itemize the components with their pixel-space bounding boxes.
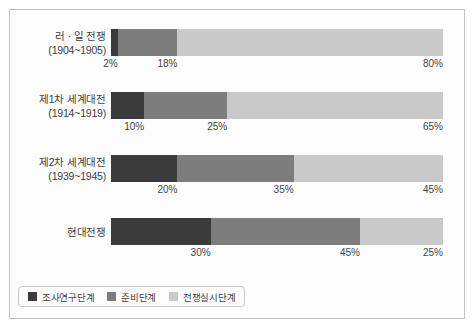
bar-segment xyxy=(227,92,443,119)
legend-swatch-icon xyxy=(28,292,37,301)
bar-value-label: 35% xyxy=(274,183,294,197)
value-label-layer: 30%45%25% xyxy=(111,246,443,262)
legend-swatch-icon xyxy=(107,292,116,301)
bar-value-label: 45% xyxy=(423,183,443,197)
bar-segment xyxy=(111,155,177,182)
stacked-bar xyxy=(111,92,443,119)
chart-legend: 조사연구단계준비단계전쟁실시단계 xyxy=(18,286,245,307)
stacked-bar xyxy=(111,218,443,245)
legend-label: 준비단계 xyxy=(121,290,156,304)
category-name: 제1차 세계대전 xyxy=(14,92,106,106)
legend-swatch-icon xyxy=(169,292,178,301)
category-name: 현대전쟁 xyxy=(14,225,106,239)
value-label-layer: 20%35%45% xyxy=(111,183,443,199)
bar-segment xyxy=(177,155,293,182)
bar-segment xyxy=(360,218,443,245)
category-years: (1914~1919) xyxy=(14,106,106,120)
category-name: 러 · 일 전쟁 xyxy=(14,29,106,43)
plot-area: 조사연구단계준비단계전쟁실시단계 러 · 일 전쟁(1904~1905)2%18… xyxy=(10,10,466,320)
bar-value-label: 25% xyxy=(207,120,227,134)
bar-segment xyxy=(294,155,443,182)
bar-segment xyxy=(111,29,118,56)
category-years: (1939~1945) xyxy=(14,169,106,183)
value-label-layer: 2%18%80% xyxy=(111,57,443,73)
bar-value-label: 30% xyxy=(191,246,211,260)
category-years: (1904~1905) xyxy=(14,43,106,57)
bar-value-label: 80% xyxy=(423,57,443,71)
bar-value-label: 18% xyxy=(157,57,177,71)
chart-figure: 조사연구단계준비단계전쟁실시단계 러 · 일 전쟁(1904~1905)2%18… xyxy=(0,0,476,331)
bar-segment xyxy=(211,218,360,245)
bar-segment xyxy=(111,92,144,119)
chart-row: 러 · 일 전쟁(1904~1905)2%18%80% xyxy=(10,29,466,87)
bar-value-label: 10% xyxy=(124,120,144,134)
bar-segment xyxy=(144,92,227,119)
category-label: 제2차 세계대전(1939~1945) xyxy=(14,155,106,183)
bar-segment xyxy=(118,29,178,56)
legend-item: 준비단계 xyxy=(107,290,156,304)
bar-value-label: 20% xyxy=(157,183,177,197)
value-label-layer: 10%25%65% xyxy=(111,120,443,136)
bar-value-label: 45% xyxy=(340,246,360,260)
category-name: 제2차 세계대전 xyxy=(14,155,106,169)
stacked-bar xyxy=(111,29,443,56)
bar-segment xyxy=(177,29,443,56)
chart-row: 현대전쟁30%45%25% xyxy=(10,218,466,276)
category-label: 제1차 세계대전(1914~1919) xyxy=(14,92,106,120)
legend-item: 조사연구단계 xyxy=(28,290,94,304)
legend-label: 전쟁실시단계 xyxy=(183,290,235,304)
chart-frame: 조사연구단계준비단계전쟁실시단계 러 · 일 전쟁(1904~1905)2%18… xyxy=(9,9,465,319)
category-label: 러 · 일 전쟁(1904~1905) xyxy=(14,29,106,57)
chart-row: 제1차 세계대전(1914~1919)10%25%65% xyxy=(10,92,466,150)
legend-label: 조사연구단계 xyxy=(42,290,94,304)
legend-item: 전쟁실시단계 xyxy=(169,290,235,304)
stacked-bar xyxy=(111,155,443,182)
bar-value-label: 2% xyxy=(103,57,117,71)
bar-value-label: 65% xyxy=(423,120,443,134)
category-label: 현대전쟁 xyxy=(14,225,106,239)
bar-segment xyxy=(111,218,211,245)
bar-value-label: 25% xyxy=(423,246,443,260)
chart-row: 제2차 세계대전(1939~1945)20%35%45% xyxy=(10,155,466,213)
